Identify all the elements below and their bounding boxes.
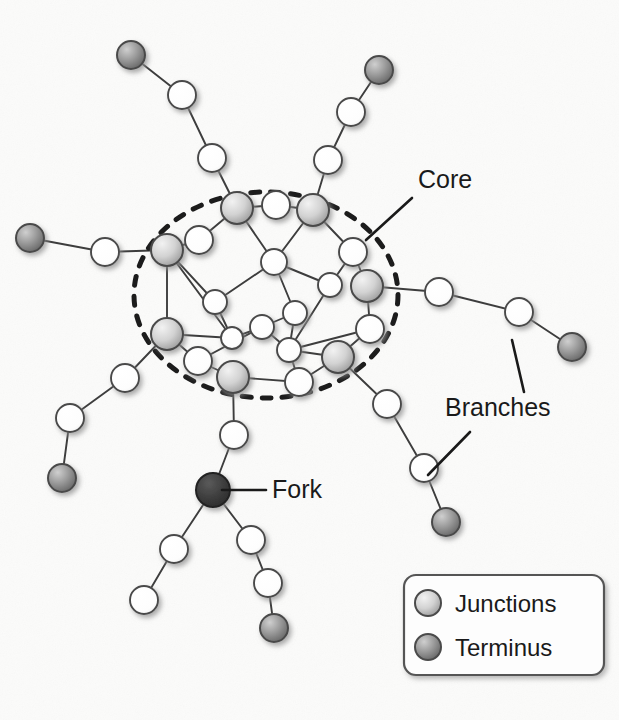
node-white-c_n1[interactable] — [262, 191, 290, 219]
node-circle[interactable] — [48, 464, 76, 492]
node-circle[interactable] — [318, 273, 342, 297]
node-white-b_r1[interactable] — [425, 278, 453, 306]
node-white-f_a1[interactable] — [160, 535, 188, 563]
node-white-c_c2[interactable] — [318, 273, 342, 297]
node-junction-j_se[interactable] — [322, 341, 354, 373]
node-circle[interactable] — [365, 56, 393, 84]
node-circle[interactable] — [432, 508, 460, 536]
node-white-b_ul1[interactable] — [168, 81, 196, 109]
node-white-b_ll2[interactable] — [56, 404, 84, 432]
node-circle[interactable] — [198, 144, 226, 172]
node-terminus-t_ur[interactable] — [365, 56, 393, 84]
node-circle[interactable] — [285, 368, 313, 396]
node-junction-j_n[interactable] — [221, 192, 253, 224]
node-terminus-t_lr[interactable] — [432, 508, 460, 536]
node-terminus-t_r[interactable] — [558, 333, 586, 361]
node-circle[interactable] — [16, 224, 44, 252]
node-white-b_l1[interactable] — [91, 238, 119, 266]
node-circle[interactable] — [283, 301, 307, 325]
node-circle[interactable] — [130, 586, 158, 614]
node-white-c_sw2[interactable] — [184, 347, 212, 375]
node-circle[interactable] — [558, 333, 586, 361]
node-circle[interactable] — [217, 361, 249, 393]
node-junction-j_e[interactable] — [351, 270, 383, 302]
legend-layer: JunctionsTerminus — [404, 575, 604, 675]
node-circle[interactable] — [220, 421, 248, 449]
node-terminus-t_ll[interactable] — [48, 464, 76, 492]
node-white-c_c3[interactable] — [283, 301, 307, 325]
node-circle[interactable] — [250, 315, 274, 339]
node-junction-j_s[interactable] — [217, 361, 249, 393]
node-white-f_b1[interactable] — [237, 526, 265, 554]
node-white-c_e2[interactable] — [356, 315, 384, 343]
node-circle[interactable] — [260, 614, 288, 642]
node-white-c_s2[interactable] — [285, 368, 313, 396]
node-junction-j_ne[interactable] — [297, 194, 329, 226]
node-circle[interactable] — [254, 569, 282, 597]
node-circle[interactable] — [184, 347, 212, 375]
node-white-c_c4[interactable] — [250, 315, 274, 339]
node-circle[interactable] — [261, 249, 287, 275]
node-circle[interactable] — [151, 318, 183, 350]
node-circle[interactable] — [203, 290, 227, 314]
node-circle[interactable] — [356, 315, 384, 343]
annotation-label-branches: Branches — [445, 393, 551, 421]
node-circle[interactable] — [91, 238, 119, 266]
node-white-f_stem[interactable] — [220, 421, 248, 449]
node-junction-j_w[interactable] — [151, 234, 183, 266]
node-circle[interactable] — [339, 238, 367, 266]
node-circle[interactable] — [168, 81, 196, 109]
node-circle[interactable] — [322, 341, 354, 373]
node-circle[interactable] — [237, 526, 265, 554]
node-circle[interactable] — [56, 404, 84, 432]
node-white-f_b2[interactable] — [254, 569, 282, 597]
legend-label-junctions: Junctions — [455, 590, 556, 617]
node-white-c_nw[interactable] — [185, 226, 213, 254]
node-circle[interactable] — [117, 41, 145, 69]
annotation-label-fork: Fork — [272, 475, 323, 503]
node-white-b_ur2[interactable] — [314, 146, 342, 174]
node-white-b_ll1[interactable] — [111, 364, 139, 392]
node-circle[interactable] — [221, 192, 253, 224]
legend-swatch-junctions — [415, 590, 441, 616]
node-white-c_c1[interactable] — [261, 249, 287, 275]
node-white-c_c5[interactable] — [277, 338, 301, 362]
legend-label-terminus: Terminus — [455, 634, 552, 661]
node-circle[interactable] — [111, 364, 139, 392]
node-circle[interactable] — [314, 146, 342, 174]
node-junction-j_sw[interactable] — [151, 318, 183, 350]
node-circle[interactable] — [351, 270, 383, 302]
node-terminus-t_ul[interactable] — [117, 41, 145, 69]
node-circle[interactable] — [425, 278, 453, 306]
node-white-b_ur1[interactable] — [337, 98, 365, 126]
node-white-c_ne2[interactable] — [339, 238, 367, 266]
node-circle[interactable] — [337, 98, 365, 126]
node-circle[interactable] — [185, 226, 213, 254]
node-circle[interactable] — [221, 327, 243, 349]
node-circle[interactable] — [297, 194, 329, 226]
node-white-c_w2[interactable] — [203, 290, 227, 314]
node-terminus-t_l[interactable] — [16, 224, 44, 252]
node-circle[interactable] — [151, 234, 183, 266]
diagram-page: CoreBranchesFork JunctionsTerminus — [0, 0, 619, 720]
node-circle[interactable] — [262, 191, 290, 219]
node-white-b_lr1[interactable] — [373, 390, 401, 418]
node-circle[interactable] — [373, 390, 401, 418]
node-circle[interactable] — [160, 535, 188, 563]
legend-swatch-terminus — [415, 634, 441, 660]
node-circle[interactable] — [505, 298, 533, 326]
network-diagram-canvas: CoreBranchesFork JunctionsTerminus — [0, 0, 619, 720]
node-circle[interactable] — [277, 338, 301, 362]
node-white-b_r2[interactable] — [505, 298, 533, 326]
annotation-label-core: Core — [418, 165, 472, 193]
node-white-c_c6[interactable] — [221, 327, 243, 349]
node-terminus-t_f[interactable] — [260, 614, 288, 642]
node-white-f_a2[interactable] — [130, 586, 158, 614]
node-white-b_ul2[interactable] — [198, 144, 226, 172]
